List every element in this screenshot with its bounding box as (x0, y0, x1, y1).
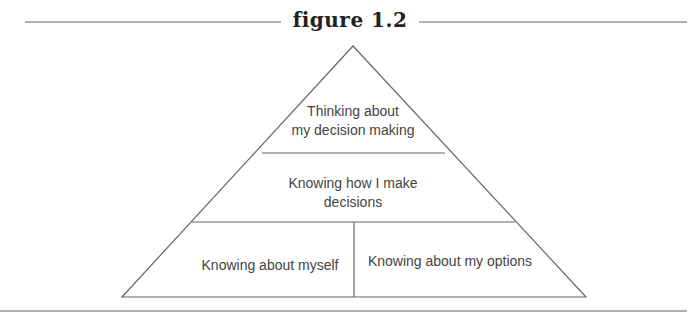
level-bottom-left-label: Knowing about myself (190, 256, 350, 275)
level-middle-line-2: decisions (243, 193, 463, 212)
level-middle-label: Knowing how I make decisions (243, 174, 463, 212)
level-top-line-1: Thinking about (253, 102, 453, 121)
level-top-label: Thinking about my decision making (253, 102, 453, 140)
level-middle-line-1: Knowing how I make (243, 174, 463, 193)
figure-title: figure 1.2 (0, 8, 700, 32)
figure-container: figure 1.2 Thinking about my decision ma… (0, 0, 700, 317)
level-bottom-right-line-1: Knowing about my options (360, 252, 540, 271)
level-top-line-2: my decision making (253, 121, 453, 140)
pyramid-diagram (0, 0, 700, 317)
level-bottom-right-label: Knowing about my options (360, 252, 540, 271)
figure-title-text: figure 1.2 (281, 8, 420, 32)
level-bottom-left-line-1: Knowing about myself (190, 256, 350, 275)
